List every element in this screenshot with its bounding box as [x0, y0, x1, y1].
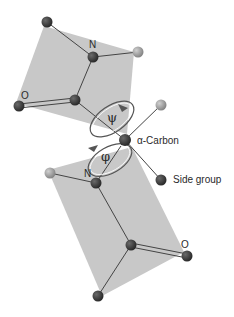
upper-h-atom: [133, 47, 144, 58]
side-group-atom: [156, 175, 167, 186]
phi-label: φ: [101, 149, 110, 164]
diagram-canvas: N O ψ φ α-Carbon Side group N O: [0, 0, 234, 317]
upper-c-atom: [70, 95, 81, 106]
upper-o-atom: [14, 101, 25, 112]
upper-n-atom: [88, 52, 99, 63]
alpha-carbon-label: α-Carbon: [137, 135, 179, 146]
peptide-diagram: N O ψ φ α-Carbon Side group N O: [0, 0, 234, 317]
lower-n-atom: [91, 178, 102, 189]
lower-o-label: O: [181, 239, 189, 250]
upper-n-label: N: [89, 39, 96, 50]
upper-corner-atom: [42, 17, 53, 28]
lower-o-atom: [182, 251, 193, 262]
lower-h-atom: [45, 168, 56, 179]
upper-o-label: O: [21, 90, 29, 101]
lower-c-atom: [126, 240, 137, 251]
side-group-label: Side group: [173, 174, 222, 185]
alpha-carbon-atom: [119, 134, 131, 146]
psi-label: ψ: [107, 110, 117, 125]
alpha-h-atom: [156, 100, 167, 111]
lower-n-label: N: [84, 168, 91, 179]
lower-corner-atom: [93, 291, 104, 302]
